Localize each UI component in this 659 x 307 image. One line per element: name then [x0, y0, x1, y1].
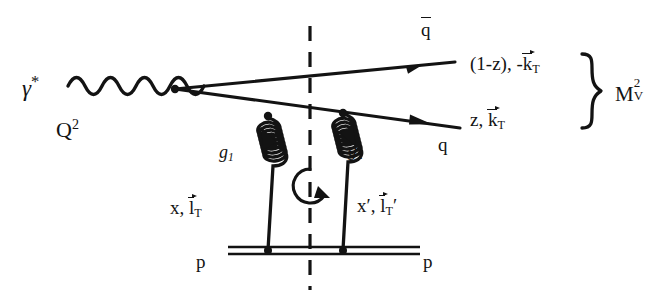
- antiquark-symbol: q: [421, 19, 431, 40]
- gluon-2-label: g2: [348, 141, 363, 162]
- gluon-2-coil: [333, 109, 362, 250]
- photon-star-symbol: *: [31, 72, 39, 91]
- brace: [582, 54, 601, 128]
- quark-fraction: z,: [470, 109, 488, 130]
- gluon-2-lt-symbol: l: [380, 195, 385, 216]
- antiquark-momentum-label: (1-z), -kT: [470, 54, 540, 76]
- quark-momentum-label: z, kT: [470, 110, 505, 132]
- antiquark-label: q: [421, 20, 431, 39]
- virtuality-label: Q2: [56, 117, 79, 141]
- proton-left-label: p: [196, 252, 206, 271]
- loop-arrowhead: [314, 186, 330, 198]
- gluon-1-label: g1: [219, 143, 234, 164]
- gluon-2-lt-prime: ′: [393, 195, 397, 216]
- gluon-2-symbol: g: [348, 140, 357, 160]
- proton-line: [228, 247, 420, 255]
- photon-symbol: γ: [22, 76, 31, 101]
- loop-arrow: [293, 169, 330, 203]
- antiquark-kt-symbol: k: [523, 53, 533, 74]
- invariant-mass-exponent: 2: [634, 76, 641, 89]
- proton-right-label: p: [423, 252, 433, 271]
- quark-label: q: [438, 135, 448, 154]
- antiquark-line: [175, 62, 455, 89]
- diagram-canvas: [0, 0, 659, 307]
- gluon-1-lt-symbol: l: [189, 197, 194, 218]
- invariant-mass-symbol: M: [615, 82, 634, 106]
- quark-line: [175, 89, 460, 128]
- photon-line: [68, 78, 204, 95]
- gluon-1-lt-sub: T: [194, 206, 201, 220]
- quark-kt-sub: T: [497, 118, 504, 132]
- proton-gluon2-vertex-dot: [339, 247, 347, 255]
- gluon-2-subscript: 2: [357, 149, 363, 161]
- gluon-1-coil: [258, 112, 287, 250]
- antiquark-kt-sub: T: [532, 62, 539, 76]
- invariant-mass-subscript: V: [634, 89, 643, 102]
- proton-right-symbol: p: [423, 251, 433, 272]
- gluon-2-lt-sub: T: [385, 204, 392, 218]
- feynman-diagram: γ* Q2 q (1-z), -kT q z, kT M2V g1 g2 x, …: [0, 0, 659, 307]
- gluon-2-momentum-fraction: x′,: [357, 195, 380, 216]
- proton-gluon1-vertex-dot: [264, 247, 272, 255]
- gluon-1-symbol: g: [219, 142, 228, 162]
- gluon-1-momentum-label: x, lT: [170, 198, 202, 220]
- gluon-2-momentum-label: x′, lT′: [357, 196, 397, 218]
- antiquark-fraction: (1-z), -: [470, 53, 523, 74]
- quark-symbol: q: [438, 134, 448, 155]
- proton-left-symbol: p: [196, 251, 206, 272]
- virtuality-symbol: Q: [56, 117, 72, 142]
- invariant-mass-label: M2V: [615, 84, 634, 105]
- gluon-2-vertex-dot: [339, 109, 347, 117]
- quark-kt-symbol: k: [488, 109, 498, 130]
- virtuality-exponent: 2: [72, 116, 79, 132]
- quark-arrowhead: [409, 115, 432, 125]
- gluon-1-subscript: 1: [228, 151, 234, 163]
- photon-label: γ*: [22, 74, 39, 100]
- gluon-1-momentum-fraction: x,: [170, 197, 189, 218]
- gluon-1-vertex-dot: [264, 112, 272, 120]
